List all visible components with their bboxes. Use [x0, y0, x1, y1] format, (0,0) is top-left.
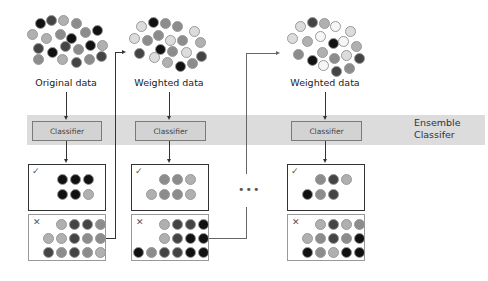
- data-point-icon: [328, 233, 339, 244]
- data-point-icon: [317, 47, 328, 58]
- data-point-icon: [315, 174, 326, 185]
- data-point-icon: [82, 233, 93, 244]
- data-point-icon: [83, 189, 94, 200]
- connector: [325, 92, 326, 118]
- data-point-icon: [56, 219, 67, 230]
- data-point-icon: [198, 247, 209, 258]
- data-point-icon: [155, 44, 166, 55]
- data-point-icon: [35, 18, 46, 29]
- ensemble-label-line2: Classifer: [414, 129, 461, 141]
- data-point-icon: [172, 189, 183, 200]
- data-point-icon: [172, 247, 183, 258]
- data-point-icon: [354, 233, 365, 244]
- data-point-icon: [58, 15, 69, 26]
- data-point-icon: [329, 53, 340, 64]
- misclassified-box-2: ✕: [131, 214, 209, 261]
- arrow-down-icon: [167, 159, 171, 163]
- data-point-icon: [354, 53, 365, 64]
- data-point-icon: [181, 47, 192, 58]
- data-point-icon: [307, 55, 318, 66]
- data-point-icon: [46, 15, 57, 26]
- data-point-icon: [159, 174, 170, 185]
- data-point-icon: [142, 35, 153, 46]
- connector: [209, 238, 247, 239]
- data-point-icon: [172, 219, 183, 230]
- data-point-icon: [129, 33, 140, 44]
- check-icon: ✓: [135, 166, 143, 176]
- data-point-icon: [302, 233, 313, 244]
- data-point-icon: [341, 174, 352, 185]
- check-icon: ✓: [291, 166, 299, 176]
- arrow-down-icon: [167, 116, 171, 120]
- data-point-icon: [175, 61, 186, 72]
- data-point-icon: [338, 36, 349, 47]
- data-point-icon: [159, 233, 170, 244]
- connector: [66, 141, 67, 161]
- data-point-icon: [315, 219, 326, 230]
- cross-icon: ✕: [33, 217, 41, 227]
- connector: [115, 52, 116, 239]
- data-point-icon: [172, 174, 183, 185]
- cross-icon: ✕: [292, 217, 300, 227]
- data-point-icon: [287, 33, 298, 44]
- data-point-icon: [344, 63, 355, 74]
- classifier-label: Classifier: [309, 127, 343, 136]
- data-point-icon: [162, 57, 173, 68]
- data-point-icon: [47, 47, 58, 58]
- data-point-icon: [185, 247, 196, 258]
- data-point-icon: [92, 25, 103, 36]
- connector: [325, 141, 326, 161]
- data-point-icon: [95, 233, 106, 244]
- data-point-icon: [148, 17, 159, 28]
- data-point-icon: [295, 21, 306, 32]
- data-point-icon: [71, 57, 82, 68]
- classifier-box-1: Classifier: [32, 121, 102, 141]
- data-point-icon: [95, 219, 106, 230]
- data-point-icon: [83, 174, 94, 185]
- data-point-icon: [159, 189, 170, 200]
- arrow-down-icon: [64, 116, 68, 120]
- data-point-icon: [185, 233, 196, 244]
- data-point-icon: [341, 219, 352, 230]
- data-point-icon: [84, 54, 95, 65]
- data-point-icon: [302, 36, 313, 47]
- data-point-icon: [331, 66, 342, 77]
- data-point-icon: [318, 60, 329, 71]
- data-point-icon: [69, 219, 80, 230]
- data-point-icon: [293, 49, 304, 60]
- data-point-icon: [330, 21, 341, 32]
- data-point-icon: [345, 26, 356, 37]
- data-point-icon: [315, 247, 326, 258]
- data-point-icon: [185, 219, 196, 230]
- connector: [246, 53, 247, 174]
- weighted-data-cluster-2: [285, 13, 367, 77]
- data-point-icon: [328, 247, 339, 258]
- data-point-icon: [95, 247, 106, 258]
- data-point-icon: [55, 29, 66, 40]
- connector: [169, 92, 170, 118]
- data-point-icon: [27, 29, 38, 40]
- data-point-icon: [160, 18, 171, 29]
- data-point-icon: [165, 35, 176, 46]
- classifier-label: Classifier: [153, 127, 187, 136]
- data-point-icon: [198, 233, 209, 244]
- data-point-icon: [172, 21, 183, 32]
- connector: [66, 92, 67, 118]
- data-point-icon: [315, 189, 326, 200]
- data-point-icon: [43, 233, 54, 244]
- data-point-icon: [341, 247, 352, 258]
- data-point-icon: [351, 41, 362, 52]
- data-point-icon: [189, 26, 200, 37]
- connector: [246, 53, 276, 54]
- ensemble-label-line1: Ensemble: [414, 117, 461, 129]
- data-point-icon: [73, 44, 84, 55]
- data-point-icon: [198, 219, 209, 230]
- data-point-icon: [70, 174, 81, 185]
- data-point-icon: [70, 189, 81, 200]
- data-point-icon: [69, 233, 80, 244]
- correct-results-box-2: ✓: [131, 164, 209, 211]
- data-point-icon: [60, 41, 71, 52]
- data-point-icon: [57, 189, 68, 200]
- data-point-icon: [33, 43, 44, 54]
- data-point-icon: [354, 219, 365, 230]
